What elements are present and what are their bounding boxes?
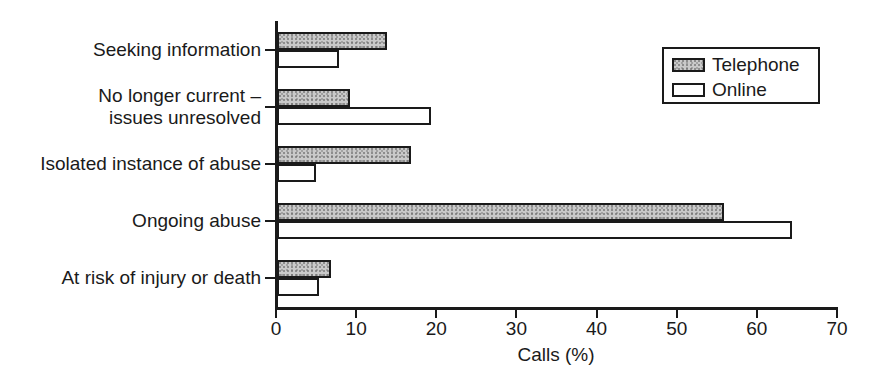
x-tick-label-30: 30 [506, 318, 527, 340]
category-label-2: Isolated instance of abuse [40, 153, 265, 175]
bar-online-0 [277, 50, 339, 68]
bar-online-2 [277, 164, 316, 182]
bar-online-3 [277, 221, 792, 239]
category-label-0: Seeking information [93, 39, 265, 61]
x-tick-label-10: 10 [346, 318, 367, 340]
x-tick-10 [355, 310, 357, 318]
x-tick-50 [676, 310, 678, 318]
y-tick-1 [265, 106, 276, 108]
bar-online-4 [277, 278, 319, 296]
x-tick-70 [836, 310, 838, 318]
x-axis-line [275, 307, 838, 310]
plot-area: 010203040506070 Seeking informationNo lo… [0, 0, 869, 392]
bar-telephone-4 [277, 260, 331, 278]
x-tick-label-50: 50 [666, 318, 687, 340]
x-tick-60 [756, 310, 758, 318]
x-tick-label-60: 60 [746, 318, 767, 340]
legend-entry-telephone: Telephone [672, 52, 818, 77]
category-label-3: Ongoing abuse [132, 210, 265, 232]
x-tick-label-40: 40 [586, 318, 607, 340]
x-tick-40 [596, 310, 598, 318]
legend-label-telephone: Telephone [712, 55, 800, 74]
y-tick-2 [265, 163, 276, 165]
x-tick-0 [275, 310, 277, 318]
legend-entry-online: Online [672, 77, 818, 102]
y-tick-0 [265, 49, 276, 51]
x-tick-label-0: 0 [271, 318, 282, 340]
x-axis-title: Calls (%) [517, 344, 594, 366]
chart-legend: Telephone Online [662, 47, 820, 104]
bar-telephone-0 [277, 32, 387, 50]
category-label-1: No longer current –issues unresolved [98, 85, 265, 129]
legend-swatch-telephone [672, 58, 705, 72]
bar-telephone-3 [277, 203, 724, 221]
x-tick-30 [515, 310, 517, 318]
bar-telephone-1 [277, 89, 350, 107]
x-tick-20 [435, 310, 437, 318]
legend-swatch-online [672, 83, 705, 97]
bar-telephone-2 [277, 146, 411, 164]
bar-chart-figure: 010203040506070 Seeking informationNo lo… [0, 0, 869, 392]
y-tick-3 [265, 220, 276, 222]
legend-label-online: Online [712, 80, 767, 99]
x-tick-label-20: 20 [426, 318, 447, 340]
category-label-4: At risk of injury or death [61, 267, 265, 289]
y-tick-4 [265, 277, 276, 279]
x-tick-label-70: 70 [826, 318, 847, 340]
bar-online-1 [277, 107, 431, 125]
